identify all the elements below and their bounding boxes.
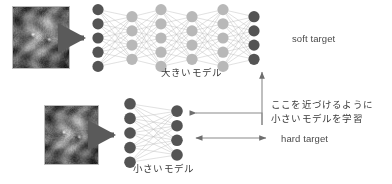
distillation-annotation: ここを近づけるように 小さいモデルを学習 <box>271 98 373 126</box>
network-node <box>92 47 103 58</box>
network-node <box>124 142 136 154</box>
network-node <box>171 105 183 117</box>
network-node <box>92 4 103 15</box>
network-node <box>126 54 137 65</box>
network-node <box>248 40 259 51</box>
student-model-label: 小さいモデル <box>133 163 194 175</box>
network-node <box>171 135 183 147</box>
network-node <box>124 127 136 139</box>
network-node <box>155 47 166 58</box>
network-node <box>92 32 103 43</box>
network-node <box>92 18 103 29</box>
network-node <box>155 18 166 29</box>
network-node <box>92 61 103 72</box>
teacher-model-label: 大きいモデル <box>161 67 222 79</box>
distillation-annotation-line2: 小さいモデルを学習 <box>271 112 373 126</box>
network-node <box>126 11 137 22</box>
network-node <box>171 149 183 161</box>
network-node <box>124 98 136 110</box>
soft-target-label: soft target <box>292 33 335 45</box>
network-node <box>248 11 259 22</box>
distillation-annotation-line1: ここを近づけるように <box>271 98 373 112</box>
network-node <box>155 4 166 15</box>
network-node <box>126 25 137 36</box>
network-node <box>126 40 137 51</box>
network-node <box>248 25 259 36</box>
teacher-network <box>92 4 259 72</box>
network-graphics <box>0 0 392 184</box>
network-node <box>217 4 228 15</box>
network-node <box>155 32 166 43</box>
distillation-arrow <box>196 72 262 125</box>
network-node <box>186 54 197 65</box>
network-node <box>124 113 136 125</box>
network-node <box>186 40 197 51</box>
network-node <box>248 54 259 65</box>
network-node <box>186 11 197 22</box>
network-node <box>217 32 228 43</box>
hard-target-label: hard target <box>281 133 328 145</box>
network-node <box>186 25 197 36</box>
diagram-canvas: 大きいモデル 小さいモデル soft target hard target ここ… <box>0 0 392 184</box>
network-node <box>217 47 228 58</box>
network-node <box>217 18 228 29</box>
student-network <box>124 98 183 168</box>
network-node <box>171 120 183 132</box>
